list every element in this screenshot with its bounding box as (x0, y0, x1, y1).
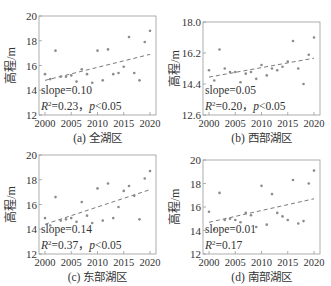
r2-annotation: R2=0.20，p<0.05 (204, 100, 286, 113)
x-tick-label: 2015 (113, 257, 134, 268)
data-point (80, 68, 83, 71)
x-tick-label: 2020 (304, 257, 325, 268)
x-tick-label: 2005 (61, 257, 82, 268)
data-point (107, 182, 110, 185)
data-point (117, 206, 120, 209)
data-point (128, 185, 131, 188)
y-tick-label: 20 (26, 149, 38, 161)
x-tick-label: 2000 (199, 257, 220, 268)
x-tick-label: 2015 (277, 118, 298, 129)
data-point (117, 72, 120, 75)
data-point (302, 83, 305, 86)
data-point (208, 69, 211, 72)
data-point (107, 48, 110, 51)
data-point (133, 195, 136, 198)
r2-annotation: R2=0.17 (204, 239, 242, 251)
y-tick-label: 20 (26, 10, 38, 22)
y-axis-label: 高程/m (167, 188, 182, 225)
x-tick-label: 2000 (35, 118, 56, 129)
data-point (307, 53, 310, 56)
data-point (143, 41, 146, 44)
y-tick-label: 16 (26, 60, 38, 72)
data-point (122, 65, 125, 68)
data-point (286, 60, 289, 63)
data-point (281, 215, 284, 218)
data-point (234, 71, 237, 74)
data-point (223, 67, 226, 70)
data-point (265, 74, 268, 77)
data-point (75, 80, 78, 83)
y-axis-label: 高程/m (167, 50, 182, 87)
y-tick-label: 18 (190, 178, 202, 190)
x-tick-label: 2000 (35, 257, 56, 268)
data-point (101, 219, 104, 222)
data-point (313, 169, 316, 172)
data-point (292, 179, 295, 182)
slope-annotation: slope=0.14 (41, 223, 92, 236)
data-point (313, 36, 316, 39)
x-tick-label: 2015 (113, 118, 134, 129)
data-point (271, 67, 274, 70)
x-tick-label: 2010 (251, 257, 272, 268)
panel-caption: (c) 东部湖区 (68, 270, 128, 284)
data-point (250, 71, 253, 74)
data-point (65, 75, 68, 78)
x-tick-label: 2010 (87, 257, 108, 268)
data-point (70, 217, 73, 220)
data-point (65, 218, 68, 221)
data-point (59, 75, 62, 78)
y-tick-label: 16.2 (182, 47, 201, 59)
x-tick-label: 2015 (277, 257, 298, 268)
data-point (276, 69, 279, 72)
y-tick-label: 16 (26, 199, 38, 211)
x-tick-label: 2020 (140, 257, 161, 268)
data-point (234, 219, 237, 222)
data-point (86, 73, 89, 76)
data-point (96, 49, 99, 52)
data-point (223, 219, 226, 222)
data-point (44, 73, 47, 76)
data-point (271, 193, 274, 196)
slope-annotation: slope=0.05 (205, 84, 256, 97)
y-tick-label: 14 (190, 225, 202, 237)
data-point (149, 170, 152, 173)
data-point (86, 214, 89, 217)
x-tick-label: 2005 (61, 118, 82, 129)
y-axis-label: 高程/m (3, 47, 18, 84)
data-point (302, 220, 305, 223)
data-point (260, 64, 263, 67)
x-tick-label: 2000 (199, 118, 220, 129)
data-point (44, 217, 47, 220)
data-point (70, 74, 73, 77)
figure: 121416182020002005201020152020高程/mslope=… (0, 0, 331, 286)
data-point (213, 79, 216, 82)
data-point (112, 73, 115, 76)
x-tick-label: 2005 (225, 257, 246, 268)
data-point (218, 192, 221, 195)
panel-d: 121416182020002005201020152020高程/mslope=… (167, 154, 325, 284)
data-point (96, 187, 99, 190)
data-point (265, 223, 268, 226)
panel-caption: (d) 南部湖区 (231, 270, 291, 284)
y-tick-label: 18 (26, 174, 38, 186)
x-tick-label: 2010 (87, 118, 108, 129)
data-point (307, 182, 310, 185)
y-tick-label: 16 (190, 201, 202, 213)
data-point (59, 219, 62, 222)
panel-caption: (b) 西部湖区 (231, 131, 291, 145)
data-point (260, 185, 263, 188)
data-point (208, 210, 211, 213)
data-point (101, 79, 104, 82)
data-point (292, 40, 295, 43)
r2-annotation: R2=0.23，p<0.05 (40, 100, 122, 113)
data-point (281, 65, 284, 68)
data-point (250, 214, 253, 217)
x-tick-label: 2010 (251, 118, 272, 129)
panel-b: 12.614.416.218.020002005201020152020高程/m… (167, 16, 325, 145)
x-tick-label: 2020 (140, 118, 161, 129)
data-point (122, 190, 125, 193)
data-point (80, 201, 83, 204)
data-point (276, 212, 279, 215)
slope-annotation: slope=0.01 (205, 223, 256, 236)
data-point (255, 78, 258, 81)
